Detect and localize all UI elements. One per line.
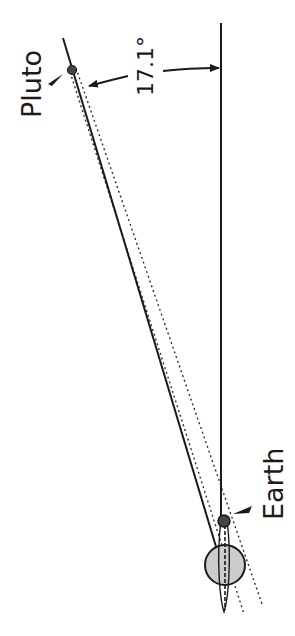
- pluto-body: [68, 66, 77, 75]
- angle-arrow-left-segment: [89, 76, 128, 86]
- pluto-sight-line: [63, 38, 217, 550]
- dotted-line-left: [70, 72, 244, 614]
- earth-label: Earth: [258, 448, 289, 520]
- pluto-label: Pluto: [16, 50, 47, 118]
- dotted-line-right: [76, 68, 262, 604]
- angle-label: 17.1°: [133, 36, 158, 96]
- pluto-pointer: [48, 74, 63, 86]
- angle-arrow-right-segment: [163, 68, 219, 71]
- earth-pointer: [233, 506, 252, 514]
- pluto-earth-angle-diagram: 17.1° Pluto Earth: [0, 0, 295, 636]
- tolerance-lines: [70, 68, 262, 614]
- earth-body: [218, 515, 230, 527]
